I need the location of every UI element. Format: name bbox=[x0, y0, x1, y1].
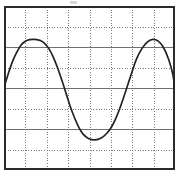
graticule-plot-area bbox=[4, 6, 175, 170]
waveform-trace bbox=[4, 39, 175, 140]
horizontal-gridlines bbox=[5, 28, 174, 151]
oscilloscope-figure bbox=[0, 0, 180, 176]
waveform-svg bbox=[4, 6, 175, 170]
scan-smudge-icon bbox=[70, 1, 77, 4]
